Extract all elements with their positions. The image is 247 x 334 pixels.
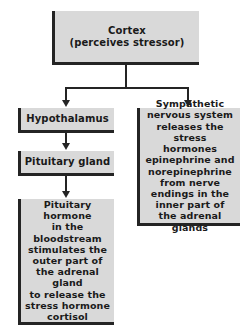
node-cortex-label: Cortex (perceives stressor)	[66, 25, 187, 49]
node-hypothalamus-label: Hypothalamus	[23, 113, 111, 125]
node-sympathetic-nervous-system: Sympathetic nervous system releases the …	[137, 108, 240, 226]
node-cortex: Cortex (perceives stressor)	[52, 11, 199, 65]
arrowhead-to-hypothalamus	[62, 100, 70, 107]
arrowhead-to-sympathetic	[184, 100, 192, 107]
node-pituitary-hormone: Pituitary hormone in the bloodstream sti…	[18, 199, 114, 325]
node-hypothalamus: Hypothalamus	[18, 108, 114, 133]
arrowhead-to-pituitary-gland	[62, 143, 70, 150]
connector-cortex-to-sympathetic	[187, 87, 189, 101]
arrowhead-to-pituitary-hormone	[62, 191, 70, 198]
connector-cortex-split-bar	[65, 87, 189, 89]
stress-response-flowchart: Cortex (perceives stressor) Hypothalamus…	[0, 0, 247, 334]
connector-cortex-stem	[125, 65, 127, 87]
node-pituitary-gland-label: Pituitary gland	[22, 156, 114, 168]
node-pituitary-gland: Pituitary gland	[18, 151, 114, 176]
connector-pituitary-gland-to-pituitary-hormone	[65, 176, 67, 192]
node-sympathetic-nervous-system-label: Sympathetic nervous system releases the …	[140, 98, 240, 232]
node-pituitary-hormone-label: Pituitary hormone in the bloodstream sti…	[21, 199, 114, 322]
connector-cortex-to-hypothalamus	[65, 87, 67, 101]
